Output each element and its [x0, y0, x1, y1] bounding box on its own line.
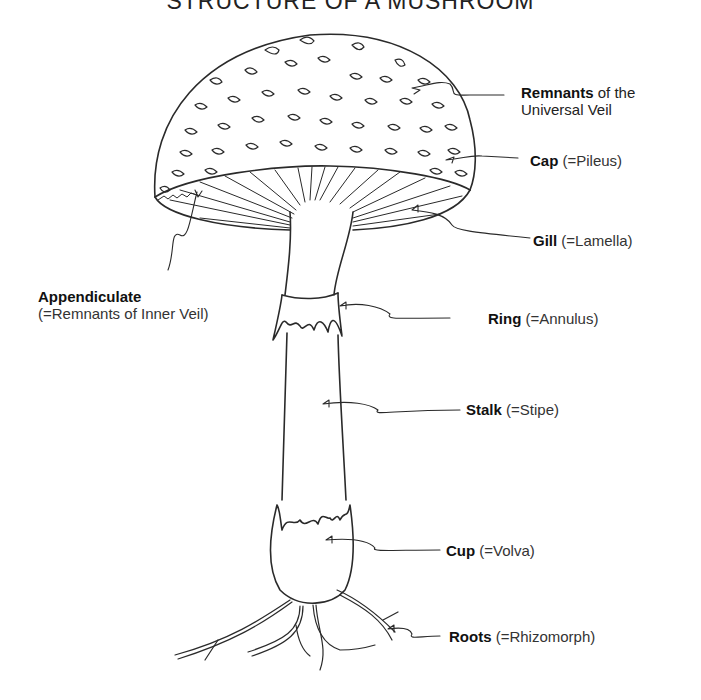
label-roots-term: Roots — [449, 628, 492, 645]
label-appendiculate-detail: (=Remnants of Inner Veil) — [38, 305, 209, 322]
label-cup-detail: (=Volva) — [475, 542, 535, 559]
gills-drawing — [170, 167, 462, 228]
label-cup-term: Cup — [446, 542, 475, 559]
label-ring-detail: (=Annulus) — [521, 310, 598, 327]
label-remnants-rest: of the — [594, 84, 636, 101]
label-gill: Gill (=Lamella) — [533, 232, 633, 249]
stalk-drawing — [273, 212, 353, 500]
veil-remnant-spots — [160, 37, 467, 192]
label-gill-term: Gill — [533, 232, 557, 249]
label-remnants-line2: Universal Veil — [521, 101, 612, 118]
label-roots-detail: (=Rhizomorph) — [492, 628, 596, 645]
label-appendiculate: Appendiculate (=Remnants of Inner Veil) — [38, 288, 209, 322]
label-ring: Ring (=Annulus) — [488, 310, 598, 327]
label-remnants: Remnants of the Universal Veil — [521, 84, 635, 118]
label-stalk-detail: (=Stipe) — [502, 401, 559, 418]
appendiculate-fringe — [158, 193, 197, 200]
cap-drawing — [155, 34, 476, 230]
label-cup: Cup (=Volva) — [446, 542, 535, 559]
label-gill-detail: (=Lamella) — [557, 232, 632, 249]
label-stalk: Stalk (=Stipe) — [466, 401, 559, 418]
label-cap: Cap (=Pileus) — [530, 152, 622, 169]
rhizomorph-drawing — [175, 590, 398, 670]
label-ring-term: Ring — [488, 310, 521, 327]
label-appendiculate-term: Appendiculate — [38, 288, 141, 305]
volva-drawing — [271, 505, 354, 603]
label-remnants-term: Remnants — [521, 84, 594, 101]
label-roots: Roots (=Rhizomorph) — [449, 628, 595, 645]
label-cap-detail: (=Pileus) — [558, 152, 622, 169]
label-cap-term: Cap — [530, 152, 558, 169]
label-stalk-term: Stalk — [466, 401, 502, 418]
